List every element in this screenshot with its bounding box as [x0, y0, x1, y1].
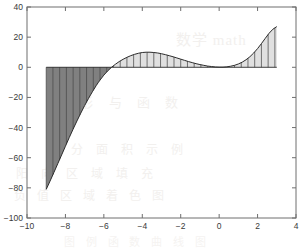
x-tick-label: 4 — [294, 221, 299, 231]
y-tick-label: −100 — [4, 213, 23, 223]
negative-area-polygon — [46, 67, 111, 189]
area-chart: −10−8−6−4−2024 −100−80−60−40−2002040 — [0, 0, 308, 248]
x-tick-label: −6 — [99, 221, 109, 231]
negative-area-fill — [46, 67, 111, 189]
x-tick-label: 0 — [217, 221, 222, 231]
y-tick-label: 20 — [14, 32, 24, 42]
y-tick-label: −80 — [9, 183, 24, 193]
positive-area-polygon — [112, 27, 277, 68]
x-tick-label: −4 — [137, 221, 147, 231]
figure-canvas: 数学 math 图 形 与 函 数 积 分 面 积 示 例 阳 向 区 域 填 … — [0, 0, 308, 248]
y-tick-label: −60 — [9, 153, 24, 163]
x-tick-label: −8 — [61, 221, 71, 231]
y-tick-label: 40 — [14, 2, 24, 12]
positive-area-fill — [112, 27, 277, 68]
y-tick-label: −20 — [9, 92, 24, 102]
y-tick-label: 0 — [18, 62, 23, 72]
x-tick-label: 2 — [255, 221, 260, 231]
x-tick-label: −2 — [176, 221, 186, 231]
y-tick-label: −40 — [9, 123, 24, 133]
